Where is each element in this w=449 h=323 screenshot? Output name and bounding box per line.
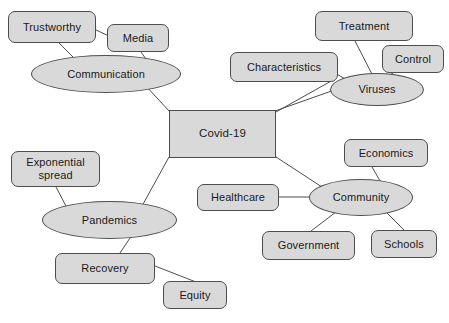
node-label-viruses: Viruses xyxy=(355,83,398,96)
node-characteristics[interactable]: Characteristics xyxy=(230,52,338,82)
node-label-trustworthy: Trustworthy xyxy=(20,21,84,34)
node-label-government: Government xyxy=(275,239,343,252)
node-label-control: Control xyxy=(392,53,434,66)
node-media[interactable]: Media xyxy=(107,24,169,52)
node-label-treatment: Treatment xyxy=(336,20,393,33)
node-viruses[interactable]: Viruses xyxy=(330,73,424,106)
node-label-characteristics: Characteristics xyxy=(244,61,324,74)
node-government[interactable]: Government xyxy=(262,231,355,260)
node-label-healthcare: Healthcare xyxy=(208,191,268,204)
node-economics[interactable]: Economics xyxy=(344,139,428,167)
edge-characteristics-to-covid19 xyxy=(276,80,333,112)
edge-recovery-to-equity xyxy=(155,266,196,282)
node-label-exponential-spread: Exponential spread xyxy=(23,156,88,181)
node-exponential-spread[interactable]: Exponential spread xyxy=(11,151,100,187)
node-communication[interactable]: Communication xyxy=(31,55,181,93)
node-equity[interactable]: Equity xyxy=(163,281,227,309)
edge-covid19-to-pandemics xyxy=(142,157,169,206)
node-covid19[interactable]: Covid-19 xyxy=(169,110,276,158)
node-community[interactable]: Community xyxy=(309,179,413,216)
node-label-covid19: Covid-19 xyxy=(196,127,249,140)
node-recovery[interactable]: Recovery xyxy=(55,253,155,284)
node-treatment[interactable]: Treatment xyxy=(315,11,413,41)
node-label-equity: Equity xyxy=(176,289,213,302)
node-healthcare[interactable]: Healthcare xyxy=(197,184,279,211)
node-label-community: Community xyxy=(330,191,393,204)
node-label-communication: Communication xyxy=(64,68,148,81)
edge-covid19-to-community xyxy=(276,157,322,187)
node-schools[interactable]: Schools xyxy=(371,230,437,258)
node-pandemics[interactable]: Pandemics xyxy=(42,201,177,239)
node-label-pandemics: Pandemics xyxy=(79,214,140,227)
node-label-economics: Economics xyxy=(356,147,417,160)
node-label-schools: Schools xyxy=(381,238,427,251)
edge-community-to-schools xyxy=(386,212,404,230)
concept-map-canvas: TrustworthyMediaCommunicationTreatmentCo… xyxy=(0,0,449,323)
node-control[interactable]: Control xyxy=(382,45,444,73)
node-label-recovery: Recovery xyxy=(78,262,131,275)
node-trustworthy[interactable]: Trustworthy xyxy=(8,11,96,43)
edge-community-to-government xyxy=(311,212,336,231)
node-label-media: Media xyxy=(120,32,156,45)
